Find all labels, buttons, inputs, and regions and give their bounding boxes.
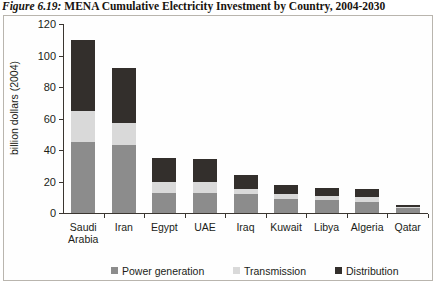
bar-stack <box>355 24 379 213</box>
bar-segment <box>112 123 136 145</box>
bar-stack <box>396 24 420 213</box>
legend-item[interactable]: Distribution <box>335 262 399 278</box>
legend-label: Power generation <box>122 265 204 277</box>
bar-segment <box>71 142 95 213</box>
bar-segment <box>234 194 258 213</box>
x-axis-tick-mark <box>347 214 348 218</box>
bar-segment <box>396 205 420 207</box>
bar-stack <box>71 24 95 213</box>
y-axis-tick-label: 0 <box>28 208 56 218</box>
bar-segment <box>315 188 339 196</box>
chart-plot-area: billion dollars (2004) 020406080100120 S… <box>0 0 439 284</box>
bar-stack <box>315 24 339 213</box>
bar-segment <box>355 189 379 197</box>
bar-segment <box>355 197 379 202</box>
bar-segment <box>112 145 136 213</box>
legend-swatch-icon <box>335 267 342 274</box>
legend-label: Transmission <box>244 265 306 277</box>
bar-segment <box>152 182 176 193</box>
x-axis-tick-mark <box>306 214 307 218</box>
bar-segment <box>396 207 420 209</box>
bar-stack <box>112 24 136 213</box>
y-axis-tick-label: 100 <box>28 51 56 61</box>
bar-segment <box>112 68 136 123</box>
x-axis-category-line: Qatar <box>378 222 438 234</box>
bar-segment <box>274 199 298 213</box>
bar-segment <box>234 189 258 194</box>
bar-segment <box>152 193 176 213</box>
y-axis-tick-label: 20 <box>28 177 56 187</box>
y-axis-tick-label: 120 <box>28 19 56 29</box>
x-axis-tick-mark <box>266 214 267 218</box>
x-axis-tick-mark <box>225 214 226 218</box>
x-axis-category-label: Qatar <box>378 222 438 234</box>
bar-segment <box>193 182 217 193</box>
x-axis-tick-mark <box>104 214 105 218</box>
legend-label: Distribution <box>346 265 399 277</box>
legend-item[interactable]: Power generation <box>111 262 204 278</box>
bar-segment <box>71 40 95 111</box>
bar-segment <box>315 196 339 201</box>
x-axis-tick-mark <box>144 214 145 218</box>
bar-segment <box>315 200 339 213</box>
y-axis-tick-label: 40 <box>28 145 56 155</box>
x-axis-category-line: Arabia <box>53 234 113 246</box>
legend-item[interactable]: Transmission <box>233 262 306 278</box>
figure-container: Figure 6.19: MENA Cumulative Electricity… <box>0 0 439 284</box>
x-axis-tick-mark <box>185 214 186 218</box>
bar-stack <box>234 24 258 213</box>
bar-segment <box>193 159 217 181</box>
y-axis-tick-label: 80 <box>28 82 56 92</box>
bar-stack <box>274 24 298 213</box>
y-axis-title: billion dollars (2004) <box>8 38 24 178</box>
bar-segment <box>234 175 258 189</box>
bar-segment <box>274 194 298 199</box>
y-axis-tick-label: 60 <box>28 114 56 124</box>
chart-legend: Power generationTransmissionDistribution <box>63 262 428 278</box>
x-axis-line <box>63 213 428 214</box>
x-axis-tick-mark <box>387 214 388 218</box>
bar-stack <box>193 24 217 213</box>
legend-swatch-icon <box>111 267 118 274</box>
bar-segment <box>71 111 95 143</box>
x-axis-tick-mark <box>428 214 429 218</box>
y-axis-line <box>63 24 64 214</box>
bar-segment <box>152 158 176 182</box>
bar-segment <box>355 202 379 213</box>
legend-swatch-icon <box>233 267 240 274</box>
bar-segment <box>193 193 217 213</box>
bar-segment <box>274 185 298 194</box>
bar-stack <box>152 24 176 213</box>
